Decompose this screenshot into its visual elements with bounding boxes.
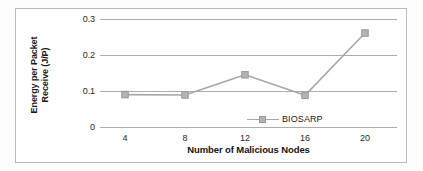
series-biosarp [100, 19, 397, 127]
data-point-marker [362, 30, 369, 37]
x-tick-label: 12 [230, 133, 260, 143]
y-tick-label: 0.1 [65, 87, 95, 96]
y-axis-title-line1: Energy per Packet [29, 37, 39, 114]
series-markers-biosarp [122, 30, 369, 99]
y-axis-tick-labels: 0.3 0.2 0.1 0 [62, 0, 95, 171]
x-tick-label: 8 [170, 133, 200, 143]
gridline-0 [100, 127, 397, 128]
legend-label-biosarp: BIOSARP [282, 114, 323, 124]
y-axis-title: Energy per Packet Receive (J/P) [20, 12, 60, 138]
y-tick-label: 0.2 [65, 51, 95, 60]
x-axis-title: Number of Malicious Nodes [100, 144, 397, 155]
data-point-marker [302, 92, 309, 99]
chart-figure: Energy per Packet Receive (J/P) 0.3 0.2 … [0, 0, 423, 171]
plot-area [100, 19, 397, 127]
series-line-biosarp [125, 33, 365, 95]
x-tick-label: 16 [290, 133, 320, 143]
legend: BIOSARP [247, 114, 323, 124]
data-point-marker [242, 72, 249, 79]
data-point-marker [182, 92, 189, 99]
x-tick-label: 4 [110, 133, 140, 143]
y-tick-label: 0.3 [65, 15, 95, 24]
x-tick-label: 20 [350, 133, 380, 143]
y-axis-title-line2: Receive (J/P) [40, 37, 51, 114]
data-point-marker [122, 91, 129, 98]
legend-line-marker-icon [247, 115, 279, 124]
y-tick-label: 0 [65, 123, 95, 132]
